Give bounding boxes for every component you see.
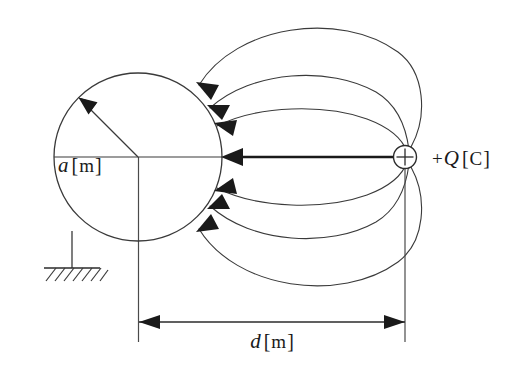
ground-symbol	[44, 231, 108, 281]
label-distance: d[m]	[250, 329, 294, 353]
dimension-d	[139, 315, 405, 329]
label-radius-variable: a	[58, 153, 69, 177]
label-charge-close-bracket: ]	[483, 147, 490, 169]
field-line-upper-2	[210, 75, 409, 150]
label-radius-unit: m	[79, 155, 94, 176]
radius-arrowhead-fill	[79, 98, 98, 115]
label-radius-open-bracket: [	[72, 154, 79, 176]
field-arrowhead-upper-1	[196, 82, 219, 100]
label-distance-variable: d	[250, 329, 261, 353]
label-radius: a[m]	[58, 153, 102, 177]
field-line-upper-3	[217, 109, 407, 152]
label-distance-close-bracket: ]	[287, 330, 294, 352]
radius-line	[86, 105, 139, 158]
label-distance-open-bracket: [	[264, 330, 271, 352]
label-charge: +Q[C]	[432, 146, 490, 170]
label-charge-sign: +	[432, 148, 443, 169]
main-arrowhead	[221, 148, 243, 166]
point-charge	[394, 146, 417, 169]
field-line-lower-2	[210, 164, 409, 239]
field-arrowhead-lower-3	[196, 214, 219, 232]
field-arrowhead-lower-2	[207, 194, 230, 209]
radius-indicator	[79, 98, 139, 158]
physics-diagram: a[m] +Q[C] d[m]	[0, 0, 522, 375]
field-line-lower-1	[217, 162, 407, 205]
label-distance-unit: m	[271, 331, 286, 352]
label-charge-open-bracket: [	[462, 147, 469, 169]
main-field-arrow	[54, 148, 405, 166]
ground-hatching	[46, 268, 108, 281]
label-charge-variable: Q	[444, 146, 459, 170]
label-radius-close-bracket: ]	[95, 154, 102, 176]
diagram-canvas: a[m] +Q[C] d[m]	[0, 0, 522, 375]
label-charge-unit: C	[470, 148, 483, 169]
dimension-arrowhead-left	[139, 315, 160, 329]
field-arrowhead-upper-2	[207, 105, 230, 120]
dimension-arrowhead-right	[384, 315, 405, 329]
